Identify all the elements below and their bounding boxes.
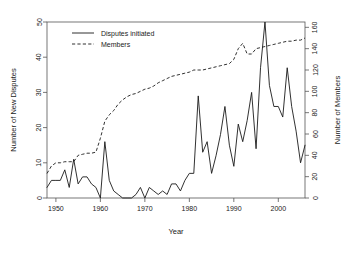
x-tick-label: 1960 [93,205,109,212]
y2-tick-label: 80 [312,109,319,117]
x-tick-label: 1980 [182,205,198,212]
x-tick-label: 1950 [48,205,64,212]
x-tick-label: 1990 [226,205,242,212]
y-tick-label: 0 [36,196,43,200]
x-axis-label: Year [168,227,184,236]
y-tick-label: 10 [36,159,43,167]
series-line-disputes [47,22,305,198]
y-tick-label: 50 [36,18,43,26]
y-tick-label: 20 [36,124,43,132]
series-line-members [47,38,305,173]
y2-tick-label: 100 [312,85,319,97]
y-tick-label: 40 [36,53,43,61]
legend-label-disputes: Disputes initiated [101,30,154,38]
y2-tick-label: 20 [312,173,319,181]
chart-figure: 1950196019701980199020000102030405002040… [0,0,353,257]
plot-frame [47,22,305,198]
legend-label-members: Members [101,41,131,48]
y2-axis-label: Number of Members [333,76,342,145]
y2-tick-label: 0 [312,196,319,200]
x-tick-label: 1970 [137,205,153,212]
y2-tick-label: 60 [312,130,319,138]
y-tick-label: 30 [36,88,43,96]
dual-axis-line-chart: 1950196019701980199020000102030405002040… [0,0,353,257]
y2-tick-label: 140 [312,43,319,55]
y2-tick-label: 160 [312,21,319,33]
x-tick-label: 2000 [271,205,287,212]
y-axis-label: Number of New Disputes [9,68,18,152]
y2-tick-label: 120 [312,64,319,76]
y2-tick-label: 40 [312,151,319,159]
